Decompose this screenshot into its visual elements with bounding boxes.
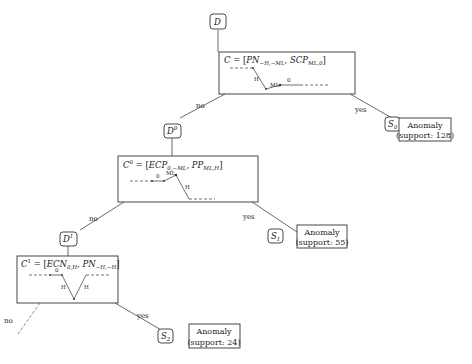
svg-text:0: 0 — [55, 267, 59, 273]
anomaly-title-0: Anomaly — [406, 121, 443, 130]
edge-yes-1 — [252, 202, 297, 232]
decision-tree-diagram: D C = [PN−H,−ML, SCPML,0] H ML 0 no yes … — [0, 0, 472, 364]
root-data-label: D — [213, 17, 221, 27]
anomaly-title-2: Anomaly — [195, 327, 232, 336]
svg-text:H: H — [185, 184, 190, 190]
edge-label-yes-0: yes — [354, 106, 367, 114]
edge-label-yes-2: yes — [136, 312, 149, 320]
svg-text:H: H — [84, 284, 89, 290]
anomaly-support-0: (support: 128) — [396, 131, 454, 140]
condition-node-0: C = [PN−H,−ML, SCPML,0] H ML 0 — [219, 52, 355, 94]
anomaly-support-1: (support: 55) — [295, 238, 348, 247]
edge-no-1 — [80, 202, 124, 230]
svg-text:H: H — [61, 284, 66, 290]
svg-text:H: H — [254, 76, 259, 82]
svg-text:0: 0 — [156, 173, 160, 179]
edge-label-no-2: no — [4, 317, 13, 325]
edge-label-yes-1: yes — [242, 213, 255, 221]
edge-label-no-0: no — [196, 102, 205, 110]
edge-no-2 — [18, 303, 40, 334]
edge-label-no-1: no — [89, 215, 98, 223]
anomaly-title-1: Anomaly — [303, 228, 340, 237]
anomaly-support-2: (support: 24) — [187, 338, 240, 347]
condition-node-2: C1 = [ECN0,H, PN−H,−H] 0 H H — [17, 256, 120, 303]
svg-text:ML: ML — [166, 170, 176, 176]
condition-node-1: C0 = [ECP0,−ML, PPML,H] 0 ML H — [118, 156, 258, 202]
svg-text:0: 0 — [287, 77, 291, 83]
svg-text:ML: ML — [270, 82, 280, 88]
